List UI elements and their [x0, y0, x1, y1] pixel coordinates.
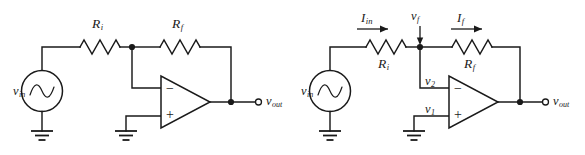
right-ground-source: [319, 131, 341, 140]
left-wire-noninverting-to-ground: [126, 116, 161, 131]
left-wire-rf-to-output-rail: [200, 47, 231, 102]
left-wire-source-to-ri: [42, 47, 80, 70]
right-current-arrow-if: [451, 26, 482, 33]
right-wire-noninverting-to-ground: [414, 116, 449, 131]
right-wire-source-to-ri: [330, 47, 366, 70]
left-wire-node-to-inverting-input: [132, 47, 161, 88]
right-ground-noninverting: [403, 131, 425, 140]
right-label-v1: v1: [425, 103, 435, 117]
right-node-arrow-vf: [417, 26, 423, 45]
right-resistor-ri-body: [366, 40, 406, 54]
left-ground-noninverting: [115, 131, 137, 140]
left-label-ri: Ri: [92, 17, 103, 32]
right-wire-rf-to-output-rail: [492, 47, 520, 102]
right-current-arrow-iin: [357, 26, 388, 33]
left-ground-source: [31, 131, 53, 140]
right-label-ri: Ri: [378, 57, 389, 72]
left-output-terminal: [256, 99, 262, 105]
right-opamp-inverting-sign: −: [454, 82, 462, 96]
right-label-current-f: If: [457, 11, 464, 26]
left-label-rf: Rf: [172, 17, 183, 32]
right-label-rf: Rf: [464, 57, 475, 72]
left-circuit-group: [22, 40, 262, 140]
right-label-current-in: Iin: [361, 11, 372, 26]
right-label-vin: vin: [301, 85, 313, 99]
right-resistor-rf-body: [452, 40, 492, 54]
left-label-vout: vout: [266, 95, 282, 109]
right-label-v2: v2: [425, 75, 435, 89]
right-label-vout: vout: [553, 95, 569, 109]
left-resistor-rf-body: [160, 40, 200, 54]
circuit-figure: vin Ri Rf vout − + vin Ri Rf Iin If vf v…: [0, 0, 585, 155]
left-opamp-noninverting-sign: +: [166, 108, 174, 122]
right-node-dot-output: [517, 99, 523, 105]
left-label-vin: vin: [13, 85, 25, 99]
circuit-svg-canvas: [0, 0, 585, 155]
right-output-terminal: [543, 99, 549, 105]
left-node-dot-output: [228, 99, 234, 105]
left-resistor-ri-body: [80, 40, 120, 54]
right-opamp-noninverting-sign: +: [454, 108, 462, 122]
left-opamp-inverting-sign: −: [166, 82, 174, 96]
right-label-node-vf: vf: [411, 10, 419, 24]
